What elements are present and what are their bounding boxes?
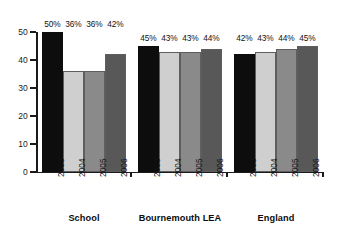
y-axis-tick-label: 30 — [0, 83, 28, 93]
bar — [105, 54, 126, 172]
group-label: School — [36, 213, 132, 223]
bar-value-label: 50% — [42, 19, 64, 29]
y-axis-tick-label: 0 — [0, 167, 28, 177]
bar-value-label: 43% — [180, 33, 202, 43]
year-label: 2005 — [99, 158, 108, 177]
x-axis-tick — [226, 172, 228, 177]
year-label: 2003 — [57, 158, 66, 177]
bar-value-label: 36% — [63, 19, 85, 29]
bar-value-label: 42% — [234, 33, 256, 43]
bar — [234, 54, 255, 172]
bar — [138, 46, 159, 172]
y-axis-tick-label: 50 — [0, 27, 28, 37]
x-axis-tick — [322, 172, 324, 177]
year-label: 2006 — [216, 158, 225, 177]
bar-value-label: 44% — [276, 33, 298, 43]
x-axis-tick — [130, 172, 132, 177]
bar-value-label: 43% — [159, 33, 181, 43]
year-label: 2005 — [291, 158, 300, 177]
year-label: 2004 — [174, 158, 183, 177]
bars-layer — [36, 32, 324, 172]
y-axis-tick-label: 10 — [0, 139, 28, 149]
bar — [84, 71, 105, 172]
group-label: Bournemouth LEA — [132, 213, 228, 223]
y-axis-tick-label: 40 — [0, 55, 28, 65]
year-label: 2004 — [78, 158, 87, 177]
bar — [159, 52, 180, 172]
bar-chart: 01020304050 50%36%36%42%45%43%43%44%42%4… — [0, 0, 340, 239]
bar — [180, 52, 201, 172]
bar — [297, 46, 318, 172]
year-label: 2003 — [249, 158, 258, 177]
bar-value-label: 42% — [105, 19, 127, 29]
bar-value-label: 36% — [84, 19, 106, 29]
bar-value-label: 44% — [201, 33, 223, 43]
year-label: 2005 — [195, 158, 204, 177]
year-label: 2006 — [312, 158, 321, 177]
y-axis-tick-label: 20 — [0, 111, 28, 121]
bar — [63, 71, 84, 172]
bar-value-label: 43% — [255, 33, 277, 43]
group-label: England — [228, 213, 324, 223]
bar-value-label: 45% — [138, 33, 160, 43]
bar — [42, 32, 63, 172]
year-label: 2006 — [120, 158, 129, 177]
bar-value-label: 45% — [297, 33, 319, 43]
bar — [276, 49, 297, 172]
bar — [255, 52, 276, 172]
year-label: 2004 — [270, 158, 279, 177]
year-label: 2003 — [153, 158, 162, 177]
bar — [201, 49, 222, 172]
